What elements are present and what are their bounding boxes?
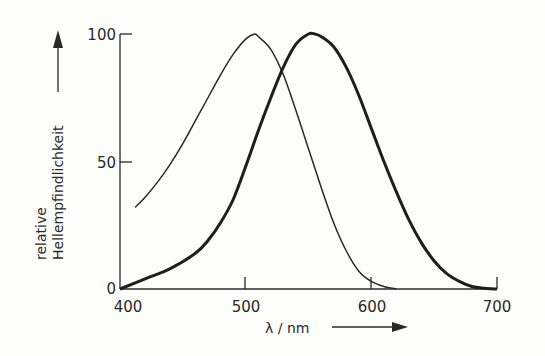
x-axis-label: λ / nm bbox=[265, 320, 408, 336]
x-axis: 400 500 600 700 bbox=[114, 277, 512, 316]
x-tick-400: 400 bbox=[114, 298, 143, 316]
photopic-curve bbox=[120, 33, 497, 289]
arrow-up-icon bbox=[53, 30, 63, 48]
y-tick-100: 100 bbox=[87, 26, 116, 44]
x-tick-600: 600 bbox=[358, 298, 387, 316]
y-label-line2: Hellempfindlichkeit bbox=[50, 125, 66, 260]
y-tick-0: 0 bbox=[106, 280, 116, 298]
x-tick-500: 500 bbox=[232, 298, 261, 316]
chart: 100 50 0 400 500 600 700 λ / nm relative… bbox=[0, 0, 545, 356]
arrow-right-icon bbox=[392, 322, 408, 332]
x-label: λ / nm bbox=[265, 320, 309, 336]
y-label-line1: relative bbox=[33, 207, 49, 260]
y-axis: 100 50 0 bbox=[87, 26, 132, 298]
y-tick-50: 50 bbox=[97, 154, 116, 172]
scotopic-curve bbox=[135, 34, 396, 289]
y-axis-label: relative Hellempfindlichkeit bbox=[33, 30, 66, 260]
x-tick-700: 700 bbox=[483, 298, 512, 316]
